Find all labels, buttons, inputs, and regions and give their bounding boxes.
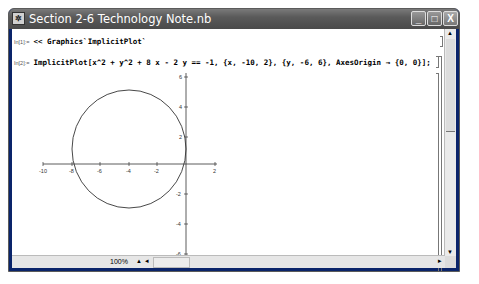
zoom-level[interactable]: 100% [110, 258, 128, 265]
scroll-right-arrow[interactable]: ▸ [438, 257, 442, 265]
scroll-left-arrow[interactable]: ◂ [145, 257, 149, 265]
y-tick-label: 4 [179, 104, 182, 110]
x-tick-label: -8 [69, 168, 74, 174]
cell-bracket-1[interactable] [440, 36, 443, 47]
notebook-content[interactable]: In[1]:=<< Graphics`ImplicitPlot` In[2]:=… [12, 29, 456, 268]
group-bracket[interactable] [439, 56, 442, 272]
resize-grip[interactable] [445, 256, 456, 268]
y-tick-label: 2 [179, 134, 182, 140]
scroll-thumb[interactable] [446, 39, 455, 132]
circle-curve [72, 90, 186, 208]
window-title: Section 2-6 Technology Note.nb [29, 12, 211, 26]
x-tick-label: -2 [154, 168, 159, 174]
x-tick-label: -6 [97, 168, 102, 174]
title-bar[interactable]: ✲ Section 2-6 Technology Note.nb _ □ X [9, 9, 459, 29]
y-tick-label: -4 [176, 221, 181, 227]
y-tick-label: -2 [176, 191, 181, 197]
zoom-menu-arrow[interactable]: ▲ [136, 258, 142, 264]
graphics-cell-bracket[interactable] [436, 73, 439, 272]
close-button[interactable]: X [443, 11, 458, 26]
notebook-window: ✲ Section 2-6 Technology Note.nb _ □ X I… [8, 8, 460, 272]
maximize-button[interactable]: □ [427, 11, 442, 26]
scroll-down-arrow[interactable]: ▼ [445, 249, 455, 255]
x-tick-label: 2 [213, 168, 216, 174]
x-tick-label: -4 [126, 168, 131, 174]
horizontal-scroll-thumb[interactable] [153, 257, 190, 268]
scroll-up-arrow[interactable]: ▲ [445, 30, 455, 36]
x-tick-label: -10 [39, 168, 47, 174]
mathematica-app-icon: ✲ [12, 12, 25, 25]
vertical-scrollbar[interactable]: ▲ ▼ [444, 29, 456, 256]
status-bar: 100% ▲ ◂ ▸ [12, 255, 445, 268]
y-tick-label: 6 [179, 74, 182, 80]
minimize-button[interactable]: _ [411, 11, 426, 26]
implicit-plot: -10 -8 -6 -4 -2 2 6 4 2 -2 -4 -6 [12, 29, 432, 269]
